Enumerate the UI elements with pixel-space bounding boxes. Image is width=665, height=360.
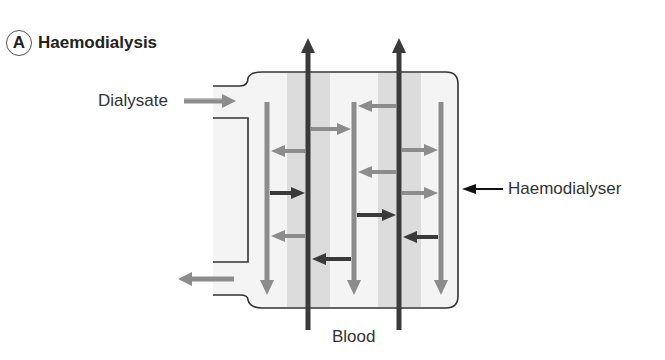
haemodialyser-pointer-icon <box>462 184 503 194</box>
dialysate-label: Dialysate <box>98 91 168 111</box>
blood-label: Blood <box>332 327 375 347</box>
haemodialyser-label: Haemodialyser <box>508 179 621 199</box>
haemodialyser-box <box>213 72 458 308</box>
